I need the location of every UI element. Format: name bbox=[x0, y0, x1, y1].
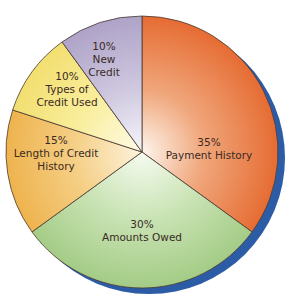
pie-chart: 35%Payment History30%Amounts Owed15%Leng… bbox=[0, 0, 290, 307]
slice-label: 10%NewCredit bbox=[88, 40, 120, 78]
